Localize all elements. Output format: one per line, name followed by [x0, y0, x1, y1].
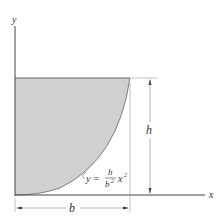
diagram-canvas: h b y x y = h b 2 x 2	[0, 0, 220, 222]
h-arrow-bottom-icon	[149, 188, 152, 194]
b-arrow-right-icon	[123, 207, 129, 210]
equation-numerator: h	[108, 167, 113, 177]
x-axis-label: x	[208, 189, 214, 200]
h-label: h	[146, 123, 152, 137]
y-axis-label: y	[11, 14, 17, 25]
h-arrow-top-icon	[149, 79, 152, 85]
equation-denominator-exp: 2	[111, 178, 114, 184]
b-label: b	[69, 201, 75, 215]
equation-prefix: y =	[85, 173, 100, 184]
equation-denominator: b	[105, 179, 110, 189]
equation-variable: x	[117, 173, 123, 184]
b-arrow-left-icon	[16, 207, 22, 210]
equation-variable-exp: 2	[124, 172, 127, 178]
